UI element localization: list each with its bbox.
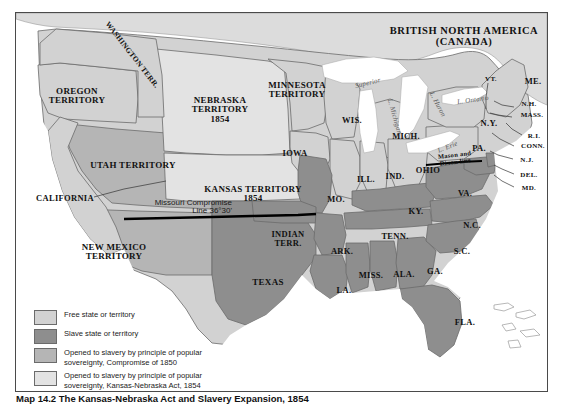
caption-text: The Kansas-Nebraska Act and Slavery Expa…: [59, 393, 309, 404]
figure-caption: Map 14.2 The Kansas-Nebraska Act and Sla…: [16, 393, 556, 404]
kansas-territory-shape: [164, 153, 300, 201]
nebraska-territory-shape: [156, 49, 290, 155]
legend-swatch-free: [34, 310, 57, 325]
legend-swatch-popular-sovereignty-1854: [34, 371, 57, 386]
oregon-territory-shape: [38, 63, 138, 123]
indian-territory-shape: [252, 201, 316, 223]
legend-item-popular-sovereignty-1850: Opened to slavery by principle of popula…: [34, 347, 284, 367]
legend-swatch-slave: [34, 329, 57, 344]
legend-item-popular-sovereignty-1854: Opened to slavery by principle of popula…: [34, 370, 284, 390]
legend-label-slave: Slave state or territory: [64, 328, 138, 339]
map-figure: BRITISH NORTH AMERICA (CANADA) OREGON TE…: [0, 0, 561, 407]
caption-number: Map 14.2: [16, 393, 56, 404]
alabama-shape: [370, 241, 398, 291]
legend-label-popular-sovereignty-1854: Opened to slavery by principle of popula…: [64, 370, 202, 390]
arkansas-shape: [314, 213, 346, 255]
illinois-shape: [330, 139, 360, 199]
legend-item-slave: Slave state or territory: [34, 328, 284, 344]
legend-label-popular-sovereignty-1850: Opened to slavery by principle of popula…: [64, 347, 202, 367]
legend-label-free: Free state or territory: [64, 309, 135, 320]
mississippi-shape: [346, 243, 370, 293]
map-frame: BRITISH NORTH AMERICA (CANADA) OREGON TE…: [15, 12, 548, 392]
legend-swatch-popular-sovereignty-1850: [34, 348, 57, 363]
tennessee-shape: [344, 209, 432, 229]
map-legend: Free state or territory Slave state or t…: [34, 309, 284, 392]
legend-item-free: Free state or territory: [34, 309, 284, 325]
